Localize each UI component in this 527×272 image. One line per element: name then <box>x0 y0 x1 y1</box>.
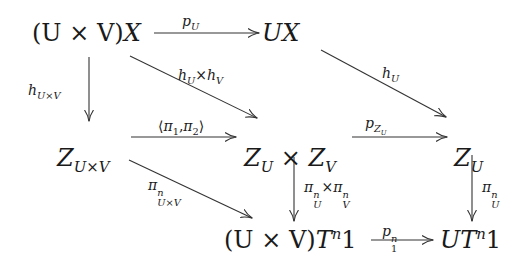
label-hu-x-hv-b-sub: V <box>216 75 223 86</box>
node-zu-x-zv-a: Z <box>244 144 261 172</box>
label-h-uxv: hU×V <box>28 83 61 97</box>
label-p-u-sub: U <box>191 21 199 32</box>
label-pi-nv-b: π <box>333 179 342 195</box>
label-pi-n-uxv: πnU×V <box>148 178 181 209</box>
node-uxv-x-prefix: (U × V) <box>32 19 124 47</box>
arrow-h-u <box>321 50 446 117</box>
label-hu-x-hv-b: h <box>207 67 216 83</box>
node-zu-main: Z <box>454 144 471 172</box>
node-z-uxv-sub: U×V <box>74 158 110 176</box>
node-z-uxv: ZU×V <box>57 146 109 170</box>
node-uxv-tn1-sup: n <box>332 225 342 243</box>
label-p-zu-sub: Z <box>374 123 381 134</box>
label-pi-n-uxv-main: π <box>148 177 157 193</box>
node-u-tn1-prefix: U <box>440 226 460 254</box>
label-p1-n: pn1 <box>382 224 397 255</box>
node-uxv-tn1: (U × V)Tn1 <box>224 228 357 252</box>
label-pi-nu-x-pi-nv: πnU×πnV <box>304 180 349 211</box>
node-zu-x-zv: ZU × ZV <box>244 146 336 170</box>
node-u-tn1: UTn1 <box>440 228 501 252</box>
node-ux-main: UX <box>262 19 299 47</box>
node-uxv-x: (U × V)X <box>32 21 141 45</box>
label-pi-nu-x-pi-nv-times: × <box>321 179 333 195</box>
node-uxv-tn1-prefix: (U × V) <box>224 226 316 254</box>
label-pi-n-u: πnU <box>482 180 499 211</box>
label-hu-x-hv-a: h <box>178 67 187 83</box>
label-pi12: ⟨π1,π2⟩ <box>158 119 204 133</box>
node-zu-x-zv-times: × <box>273 144 308 172</box>
label-hu-x-hv-times: × <box>195 67 207 83</box>
node-zu-x-zv-a-sub: U <box>261 158 274 176</box>
node-uxv-x-main: X <box>124 19 141 47</box>
node-z-uxv-main: Z <box>57 144 74 172</box>
label-h-u-sub: U <box>391 73 399 84</box>
node-zu-sub: U <box>471 158 484 176</box>
node-zu-x-zv-b: Z <box>309 144 326 172</box>
node-u-tn1-sup: n <box>476 225 486 243</box>
node-u-tn1-post: 1 <box>486 226 501 254</box>
label-p-zu: pZU <box>365 116 387 133</box>
label-p1-n-main: p <box>382 223 391 239</box>
node-ux: UX <box>262 21 299 45</box>
label-pi-n-u-sub: U <box>491 200 499 210</box>
label-p-zu-subsub: U <box>381 129 387 137</box>
label-pi-n-u-main: π <box>482 179 491 195</box>
label-h-uxv-main: h <box>28 82 37 98</box>
label-hu-x-hv: hU×hV <box>178 68 223 82</box>
label-pi12-pi1: π <box>163 118 172 134</box>
node-uxv-tn1-t: T <box>316 226 332 254</box>
arrow-hu-x-hv <box>130 56 257 118</box>
node-zu-x-zv-b-sub: V <box>325 158 336 176</box>
label-p1-n-sub: 1 <box>391 244 397 254</box>
node-uxv-tn1-post: 1 <box>341 226 356 254</box>
label-h-u-main: h <box>382 65 391 81</box>
label-p-zu-main: p <box>365 115 374 131</box>
label-p-u-main: p <box>182 13 191 29</box>
label-h-uxv-sub: U×V <box>37 90 61 101</box>
label-pi12-rangle: ⟩ <box>199 118 204 134</box>
label-pi-nu-a-sub: U <box>313 200 321 210</box>
label-p-u: pU <box>182 14 199 28</box>
label-h-u: hU <box>382 66 399 80</box>
node-u-tn1-t: T <box>460 226 476 254</box>
node-zu: ZU <box>454 146 483 170</box>
label-pi-nv-b-sub: V <box>342 200 349 210</box>
label-pi-n-uxv-sub: U×V <box>157 198 181 208</box>
commutative-diagram: (U × V)X UX ZU×V ZU × ZV ZU (U × V)Tn1 U… <box>0 0 527 272</box>
label-pi12-pi2: π <box>183 118 192 134</box>
label-pi-nu-a: π <box>304 179 313 195</box>
